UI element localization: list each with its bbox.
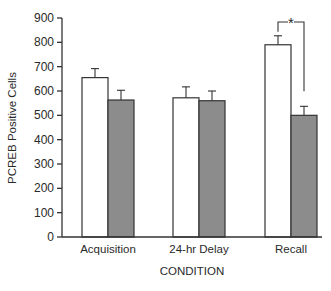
bar-acquisition-2: [108, 100, 134, 237]
y-tick-label: 400: [34, 133, 54, 147]
bar-24-hr-delay-1: [173, 98, 199, 237]
y-tick-label: 100: [34, 206, 54, 220]
bars: [82, 36, 317, 237]
bar-chart: 0100200300400500600700800900 Acquisition…: [0, 0, 331, 291]
bar-acquisition-1: [82, 78, 108, 237]
bar-recall-1: [265, 45, 291, 237]
y-tick-label: 800: [34, 35, 54, 49]
y-tick-label: 300: [34, 157, 54, 171]
x-tick-label: Recall: [275, 243, 307, 255]
x-tick-label: Acquisition: [80, 243, 136, 255]
x-tick-label: 24-hr Delay: [169, 243, 229, 255]
y-tick-label: 700: [34, 60, 54, 74]
y-tick-label: 200: [34, 181, 54, 195]
bar-recall-2: [291, 115, 317, 237]
y-tick-label: 900: [34, 11, 54, 25]
x-axis: Acquisition24-hr DelayRecall: [62, 237, 322, 255]
bar-24-hr-delay-2: [199, 101, 225, 237]
x-axis-title: CONDITION: [160, 265, 225, 277]
significance-star: *: [288, 14, 294, 31]
y-tick-label: 0: [47, 230, 54, 244]
y-tick-label: 500: [34, 108, 54, 122]
y-axis-title: PCREB Positive Cells: [6, 72, 18, 184]
y-axis: 0100200300400500600700800900: [34, 11, 62, 244]
y-tick-label: 600: [34, 84, 54, 98]
